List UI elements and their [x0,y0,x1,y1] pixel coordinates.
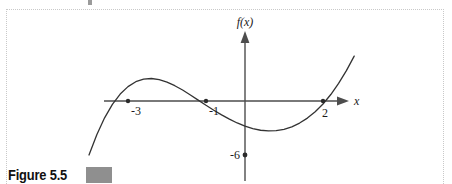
x-tick-label-minus3: -3 [131,104,141,118]
root-point-minus3 [126,99,130,103]
root-point-minus1 [204,99,208,103]
y-axis-arrowhead [241,31,250,43]
figure-page: -3 -1 2 -6 f(x) x Figure 5.5 [0,0,452,184]
x-tick-label-2: 2 [322,106,328,120]
figure-caption-text: Figure 5.5 [8,167,67,183]
root-point-2 [321,99,325,103]
x-tick-label-minus1: -1 [209,104,219,118]
x-axis-arrowhead [337,97,349,106]
y-intercept-point-minus6 [243,153,248,158]
y-tick-label-minus6: -6 [230,148,240,162]
figure-caption-placeholder-box [86,167,112,183]
function-graph: -3 -1 2 -6 f(x) x [0,0,452,184]
y-axis-label: f(x) [237,15,254,29]
x-axis-label: x [353,94,360,108]
figure-caption: Figure 5.5 [8,167,112,183]
function-curve [89,56,354,155]
